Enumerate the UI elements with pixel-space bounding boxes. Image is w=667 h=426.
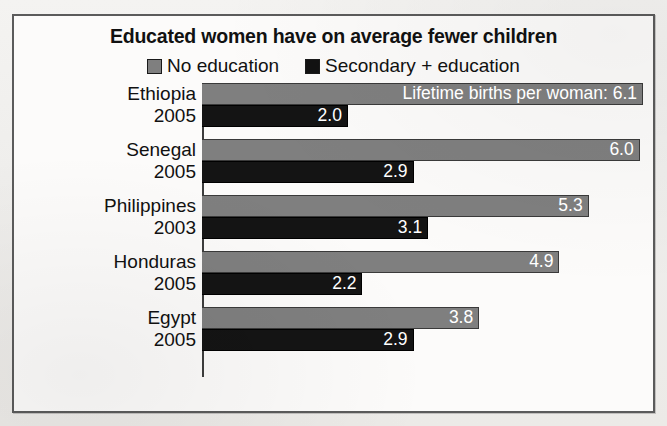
country-label: Egypt bbox=[14, 307, 196, 329]
bar-value-no-education: 3.8 bbox=[449, 309, 473, 327]
bar-row-secondary-education: 2.0 bbox=[202, 105, 643, 127]
bar-row-secondary-education: 2.9 bbox=[202, 329, 643, 351]
bar-row-no-education: Lifetime births per woman: 6.1 bbox=[202, 83, 643, 105]
chart-group: Honduras20054.92.2 bbox=[202, 251, 643, 307]
bar-no-education[interactable]: Lifetime births per woman: 6.1 bbox=[202, 83, 643, 105]
plot-area: Ethiopia2005Lifetime births per woman: 6… bbox=[14, 83, 653, 383]
chart-group: Ethiopia2005Lifetime births per woman: 6… bbox=[202, 83, 643, 139]
gray-swatch-icon bbox=[147, 59, 162, 74]
chart-legend: No education Secondary + education bbox=[14, 55, 653, 77]
scanned-page: Educated women have on average fewer chi… bbox=[0, 0, 667, 426]
bar-value-secondary-education: 2.2 bbox=[332, 275, 356, 293]
category-label: Honduras2005 bbox=[14, 251, 196, 295]
chart-group: Egypt20053.82.9 bbox=[202, 307, 643, 363]
bar-row-no-education: 3.8 bbox=[202, 307, 643, 329]
bar-value-secondary-education: 3.1 bbox=[398, 219, 422, 237]
category-label: Senegal2005 bbox=[14, 139, 196, 183]
bar-row-secondary-education: 2.9 bbox=[202, 161, 643, 183]
bar-secondary-education[interactable]: 2.9 bbox=[202, 329, 414, 351]
bar-row-secondary-education: 2.2 bbox=[202, 273, 643, 295]
bar-secondary-education[interactable]: 3.1 bbox=[202, 217, 428, 239]
year-label: 2005 bbox=[14, 329, 196, 351]
bar-value-no-education: 6.0 bbox=[609, 141, 633, 159]
black-swatch-icon bbox=[305, 59, 320, 74]
bar-secondary-education[interactable]: 2.0 bbox=[202, 105, 348, 127]
year-label: 2005 bbox=[14, 273, 196, 295]
category-label: Egypt2005 bbox=[14, 307, 196, 351]
bar-value-secondary-education: 2.9 bbox=[383, 163, 407, 181]
bar-secondary-education[interactable]: 2.2 bbox=[202, 273, 362, 295]
country-label: Philippines bbox=[14, 195, 196, 217]
year-label: 2005 bbox=[14, 161, 196, 183]
bar-no-education[interactable]: 3.8 bbox=[202, 307, 479, 329]
bar-no-education[interactable]: 4.9 bbox=[202, 251, 559, 273]
legend-item-secondary-education: Secondary + education bbox=[305, 55, 520, 77]
bar-no-education[interactable]: 5.3 bbox=[202, 195, 589, 217]
year-label: 2005 bbox=[14, 105, 196, 127]
country-label: Senegal bbox=[14, 139, 196, 161]
category-label: Ethiopia2005 bbox=[14, 83, 196, 127]
bar-value-no-education: 4.9 bbox=[529, 253, 553, 271]
bar-row-no-education: 5.3 bbox=[202, 195, 643, 217]
bar-value-no-education: 5.3 bbox=[558, 197, 582, 215]
bar-row-no-education: 4.9 bbox=[202, 251, 643, 273]
bar-secondary-education[interactable]: 2.9 bbox=[202, 161, 414, 183]
chart-title: Educated women have on average fewer chi… bbox=[28, 25, 639, 48]
bar-row-secondary-education: 3.1 bbox=[202, 217, 643, 239]
chart-group: Senegal20056.02.9 bbox=[202, 139, 643, 195]
legend-item-no-education: No education bbox=[147, 55, 279, 77]
bar-value-secondary-education: 2.9 bbox=[383, 331, 407, 349]
bar-no-education[interactable]: 6.0 bbox=[202, 139, 640, 161]
year-label: 2003 bbox=[14, 217, 196, 239]
category-label: Philippines2003 bbox=[14, 195, 196, 239]
country-label: Honduras bbox=[14, 251, 196, 273]
legend-label-no-education: No education bbox=[167, 55, 279, 77]
bar-row-no-education: 6.0 bbox=[202, 139, 643, 161]
chart-group: Philippines20035.33.1 bbox=[202, 195, 643, 251]
chart-figure: Educated women have on average fewer chi… bbox=[12, 14, 655, 413]
bar-value-secondary-education: 2.0 bbox=[318, 107, 342, 125]
bar-annotation: Lifetime births per woman: 6.1 bbox=[403, 85, 637, 103]
legend-label-secondary-education: Secondary + education bbox=[325, 55, 520, 77]
country-label: Ethiopia bbox=[14, 83, 196, 105]
